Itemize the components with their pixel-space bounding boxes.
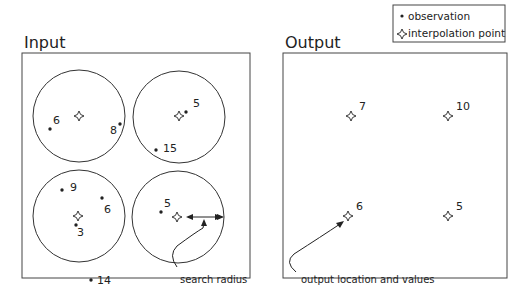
interpolation-point-icon — [443, 111, 453, 121]
interpolation-point-icon — [343, 211, 353, 221]
interpolation-point-icon — [174, 111, 184, 121]
observation-dot-icon — [154, 148, 157, 151]
legend-observation-label: observation — [408, 10, 470, 22]
interpolation-point-icon — [346, 111, 356, 121]
observation-dot-icon — [100, 196, 103, 199]
observation-dot-icon — [159, 210, 162, 213]
search-circle-2: 515 — [133, 71, 225, 163]
interpolation-point-icon — [172, 212, 182, 222]
observation-dot-icon — [184, 110, 187, 113]
output-location-annotation: output location and values — [289, 221, 434, 285]
observation-value: 14 — [97, 274, 111, 287]
observation-dot-icon — [89, 278, 92, 281]
interpolation-point-icon — [73, 211, 83, 221]
legend: observation interpolation point — [393, 5, 505, 42]
input-title: Input — [24, 33, 65, 52]
output-title: Output — [285, 33, 341, 52]
input-frame — [22, 53, 250, 278]
input-panel: 68515963514 — [33, 70, 225, 287]
output-value: 5 — [456, 200, 463, 213]
observation-dot-icon — [60, 188, 63, 191]
observation-value: 15 — [163, 142, 177, 155]
output-annotation-label: output location and values — [301, 274, 435, 285]
output-frame — [283, 53, 507, 278]
search-circle-3: 963 — [33, 170, 125, 262]
observation-value: 8 — [110, 124, 117, 137]
interpolation-point-icon — [443, 211, 453, 221]
output-value: 7 — [359, 100, 366, 113]
observation-value: 9 — [70, 181, 77, 194]
interpolation-point-icon — [74, 111, 84, 121]
search-circle-1: 68 — [33, 70, 125, 162]
observation-value: 6 — [104, 203, 111, 216]
output-value: 6 — [356, 200, 363, 213]
legend-interpolation-label: interpolation point — [408, 27, 505, 39]
observation-value: 5 — [193, 97, 200, 110]
observation-value: 3 — [77, 226, 84, 239]
search-radius-label: search radius — [180, 274, 247, 285]
observation-value: 6 — [53, 114, 60, 127]
output-panel: 71065 — [343, 100, 470, 221]
observation-dot-icon — [48, 127, 51, 130]
interpolation-diagram: observation interpolation point Input 68… — [0, 0, 529, 305]
output-value: 10 — [456, 100, 470, 113]
observation-value: 5 — [164, 197, 171, 210]
observation-dot-icon — [400, 14, 403, 17]
observation-dot-icon — [118, 122, 121, 125]
